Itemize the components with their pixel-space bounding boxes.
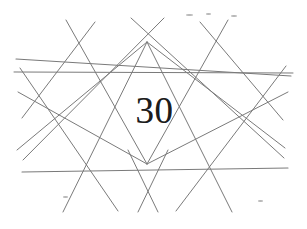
- figure-canvas: 30: [0, 0, 307, 229]
- line-arrangement-svg: [0, 0, 307, 229]
- figure-background: [0, 0, 307, 229]
